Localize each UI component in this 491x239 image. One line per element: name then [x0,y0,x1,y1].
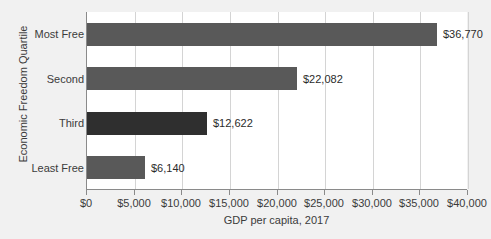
x-axis-tick [86,190,87,195]
x-axis-tick-label: $15,000 [209,197,249,209]
x-axis-tick-label: $10,000 [161,197,201,209]
x-axis-tick [419,190,420,195]
x-axis-tick [229,190,230,195]
plot-area: $36,770$22,082$12,622$6,140 [86,12,467,190]
x-axis-tick-label: $25,000 [304,197,344,209]
x-axis-tick [277,190,278,195]
x-axis-tick [134,190,135,195]
bar-value-label: $6,140 [151,162,185,174]
x-axis-tick-label: $40,000 [447,197,487,209]
bar-value-label: $22,082 [303,73,343,85]
bar-value-label: $36,770 [443,28,483,40]
x-axis-tick [467,190,468,195]
y-axis-tick-label: Third [22,117,84,129]
x-axis-tick [324,190,325,195]
bar-chart-figure: Economic Freedom Quartile Most FreeSecon… [0,0,491,239]
x-axis-tick [372,190,373,195]
x-axis-tick-label: $20,000 [257,197,297,209]
bar [87,23,437,46]
y-axis-tick-labels: Most FreeSecondThirdLeast Free [22,12,84,190]
bar [87,112,207,135]
y-axis-tick-label: Least Free [22,162,84,174]
bar [87,156,145,179]
bar [87,67,297,90]
x-axis-tick-label: $35,000 [399,197,439,209]
x-axis-tick-label: $0 [80,197,92,209]
x-axis-tick-label: $30,000 [352,197,392,209]
y-axis-tick-label: Most Free [22,28,84,40]
bar-value-label: $12,622 [213,117,253,129]
x-axis-tick [181,190,182,195]
x-axis-title: GDP per capita, 2017 [86,214,467,226]
y-axis-tick-label: Second [22,73,84,85]
x-axis-tick-label: $5,000 [117,197,151,209]
